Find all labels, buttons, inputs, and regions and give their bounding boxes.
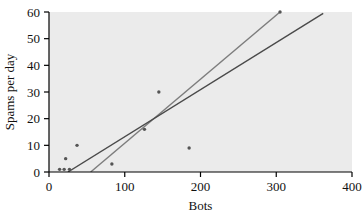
data-point [278,10,281,13]
y-tick-label: 50 [27,31,40,46]
y-tick-label: 40 [27,58,40,73]
data-point [75,144,78,147]
x-tick-label: 400 [342,179,362,194]
y-tick-label: 20 [27,111,40,126]
y-tick-label: 30 [27,85,40,100]
data-point [62,168,65,171]
data-point [187,146,190,149]
data-point [64,157,67,160]
x-tick-label: 300 [267,179,287,194]
data-point [58,168,61,171]
x-tick-label: 0 [46,179,53,194]
x-tick-label: 200 [191,179,211,194]
data-point [157,90,160,93]
y-axis-title: Spams per day [2,53,17,130]
chart-root: 01002003004000102030405060BotsSpams per … [0,0,362,220]
data-point [110,162,113,165]
plot-area-background [49,12,352,172]
y-tick-label: 10 [27,138,40,153]
scatter-plot: 01002003004000102030405060BotsSpams per … [0,0,362,220]
y-tick-label: 0 [34,165,41,180]
x-tick-label: 100 [115,179,135,194]
data-point [143,128,146,131]
data-point [68,168,71,171]
x-axis-title: Bots [189,198,213,213]
y-tick-label: 60 [27,5,40,20]
